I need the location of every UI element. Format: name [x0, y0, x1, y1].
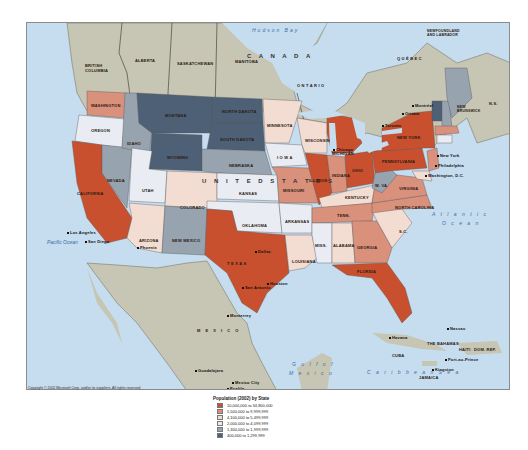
state-vermont	[432, 101, 442, 121]
legend: Population (2002) by State 10,000,000 to…	[213, 396, 323, 438]
city-los-angeles: Los Angeles	[67, 230, 96, 235]
label-nevada: NEVADA	[107, 178, 125, 183]
legend-swatch	[217, 433, 223, 438]
label-gulf-of: G u l f o f	[292, 361, 334, 367]
label-manitoba: MANITOBA	[235, 59, 258, 64]
city-ottawa: Ottawa	[402, 111, 420, 116]
label-minnesota: MINNESOTA	[267, 123, 293, 128]
label-bc: BRITISH COLUMBIA	[85, 63, 111, 73]
label-bahamas: THE BAHAMAS	[427, 341, 459, 346]
label-dom-rep: DOM. REP.	[474, 347, 496, 352]
label-illinois: ILLINOIS	[309, 178, 328, 183]
label-wv: W. VA.	[375, 183, 388, 188]
state-louisiana	[285, 235, 317, 271]
state-minnesota	[263, 99, 302, 143]
state-arkansas	[279, 203, 312, 233]
label-utah: UTAH	[142, 188, 154, 193]
label-nc: NORTH CAROLINA	[395, 205, 434, 210]
city-mexico-city: Mexico City	[232, 380, 259, 385]
legend-swatch	[217, 421, 223, 426]
legend-item: 400,000 to 1,299,999	[213, 432, 323, 438]
label-cuba: CUBA	[392, 353, 404, 358]
label-iowa: I O W A	[277, 155, 292, 160]
legend-swatch	[217, 427, 223, 432]
label-arizona: ARIZONA	[139, 238, 159, 243]
label-hudson-bay: Hudson Bay	[252, 27, 299, 33]
label-jamaica: JAMAICA	[419, 375, 439, 380]
city-port-au-prince: Port-au-Prince	[445, 357, 478, 362]
label-alberta: ALBERTA	[135, 58, 155, 63]
label-mexico: M E X I C O	[197, 328, 240, 333]
state-wyoming	[149, 133, 202, 171]
label-ohio: OHIO	[352, 168, 363, 173]
label-nebraska: NEBRASKA	[229, 163, 253, 168]
state-new-mexico	[162, 206, 207, 255]
copyright-notice: Copyright © 2002 Microsoft Corp. and/or …	[28, 386, 141, 390]
label-atlantic: A t l a n t i c	[432, 211, 488, 217]
legend-title: Population (2002) by State	[213, 396, 323, 401]
legend-label: 1,300,000 to 1,999,999	[227, 427, 268, 432]
city-toronto: Toronto	[382, 123, 401, 128]
label-ontario: O N T A R I O	[297, 83, 324, 88]
label-alabama: ALABAMA	[333, 243, 355, 248]
label-georgia: GEORGIA	[357, 245, 377, 250]
label-south-dakota: SOUTH DAKOTA	[220, 137, 254, 142]
map-canvas	[27, 23, 510, 390]
label-newfoundland: NEWFOUNDLAND AND LABRADOR	[427, 29, 467, 37]
city-san-diego: San Diego	[85, 239, 109, 244]
map-frame: Hudson Bay C A N A D A Q U É B E C O N T…	[26, 22, 510, 390]
city-washington-dc: Washington, D.C.	[425, 173, 464, 178]
state-connecticut	[437, 135, 452, 143]
label-saskatchewan: SASKATCHEWAN	[177, 61, 213, 66]
label-idaho: IDAHO	[127, 141, 141, 146]
label-oklahoma: OKLAHOMA	[242, 223, 267, 228]
label-kentucky: KENTUCKY	[345, 195, 369, 200]
label-quebec: Q U É B E C	[397, 56, 422, 61]
label-new-brunswick: NEW BRUNSWICK	[457, 105, 479, 113]
legend-label: 2,000,000 to 4,099,999	[227, 421, 268, 426]
label-wyoming: WYOMING	[167, 155, 188, 160]
city-phoenix: Phoenix	[137, 245, 157, 250]
label-ns: N.S.	[489, 101, 498, 106]
label-missouri: MISSOURI	[283, 188, 304, 193]
city-dallas: Dallas	[255, 249, 271, 254]
label-new-york: NEW YORK	[397, 135, 421, 140]
label-texas: T E X A S	[227, 261, 246, 266]
city-monterrey: Monterrey	[227, 313, 251, 318]
city-havana: Havana	[389, 335, 407, 340]
legend-label: 10,000,000 to 34,800,000	[227, 403, 273, 408]
label-oregon: OREGON	[91, 128, 110, 133]
state-nebraska	[202, 149, 272, 175]
label-kansas: KANSAS	[239, 191, 257, 196]
legend-label: 4,100,000 to 5,499,999	[227, 415, 268, 420]
city-montreal: Montréal	[412, 103, 433, 108]
label-indiana: INDIANA	[332, 173, 350, 178]
city-houston: Houston	[267, 281, 288, 286]
label-gulf-mexico: M e x i c o	[289, 370, 334, 376]
label-new-mexico: NEW MEXICO	[172, 238, 200, 243]
city-nassau: Nassau	[447, 326, 465, 331]
label-louisiana: LOUISIANA	[292, 259, 316, 264]
legend-swatch	[217, 415, 223, 420]
label-washington: WASHINGTON	[91, 103, 120, 108]
legend-label: 5,500,000 to 9,999,999	[227, 409, 268, 414]
label-california: CALIFORNIA	[77, 191, 104, 196]
label-pacific-ocean: Pacific Ocean	[47, 239, 78, 245]
label-atlantic-ocean: O c e a n	[442, 220, 480, 226]
city-guadalajara: Guadalajara	[195, 368, 223, 373]
label-sc: S.C.	[399, 229, 408, 234]
city-new-york: New York	[437, 153, 459, 158]
label-north-dakota: NORTH DAKOTA	[222, 109, 257, 114]
label-pennsylvania: PENNSYLVANIA	[382, 159, 415, 164]
legend-swatch	[217, 409, 223, 414]
label-virginia: VIRGINIA	[399, 186, 418, 191]
label-arkansas: ARKANSAS	[285, 219, 309, 224]
label-mississippi: MISS.	[315, 243, 327, 248]
city-puebla: Puebla	[227, 386, 244, 390]
city-philadelphia: Philadelphia	[435, 163, 464, 168]
state-massachusetts	[435, 126, 459, 135]
legend-swatch	[217, 403, 223, 408]
label-haiti: HAITI	[459, 347, 470, 352]
city-kingston: Kingston	[432, 367, 454, 372]
city-chicago: Chicago	[333, 147, 353, 152]
